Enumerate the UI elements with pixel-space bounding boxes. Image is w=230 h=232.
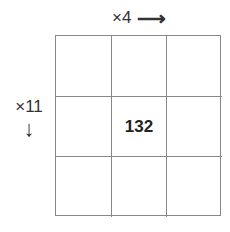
arrow-down-icon: ↓ [12, 119, 46, 139]
grid-cell [56, 36, 112, 97]
vertical-multiplier-label: ×11 ↓ [12, 97, 46, 139]
grid-cell [167, 36, 222, 97]
vertical-multiplier-text: ×11 [15, 97, 43, 116]
grid-cell-center: 132 [112, 97, 167, 157]
grid-cell [167, 157, 222, 217]
number-grid: 132 [55, 35, 221, 216]
grid-cell [167, 97, 222, 157]
grid-cell [56, 97, 112, 157]
grid-cell [112, 36, 167, 97]
arrow-right-icon: ⟶ [137, 6, 166, 30]
grid-cell [56, 157, 112, 217]
horizontal-multiplier-label: ×4 ⟶ [112, 6, 166, 30]
horizontal-multiplier-text: ×4 [112, 8, 131, 28]
grid-cell [112, 157, 167, 217]
